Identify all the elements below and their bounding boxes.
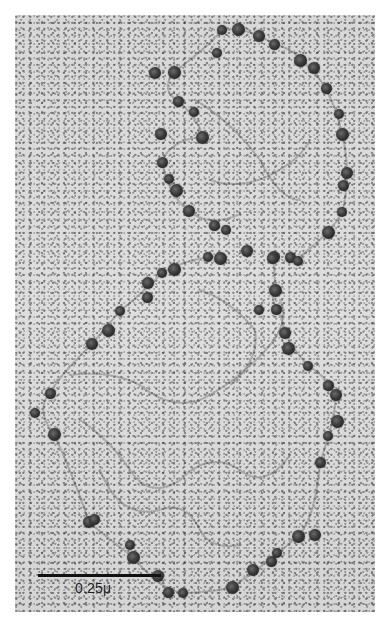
nucleosome-bead [323,431,333,441]
nucleosome-bead [315,457,326,468]
nucleosome-bead [279,327,291,339]
nucleosome-bead [189,107,199,117]
nucleosome-bead [157,157,168,168]
nucleosome-bead [163,587,174,598]
nucleosome-bead [294,54,307,67]
nucleosome-bead [125,540,135,550]
nucleosome-bead [30,408,40,418]
nucleosome-bead [303,361,313,371]
nucleosome-bead [168,66,181,79]
nucleosome-bead [321,83,332,94]
nucleosome-bead [212,48,222,58]
nucleosome-bead [334,109,344,119]
nucleosome-bead [309,529,321,541]
nucleosome-bead [267,253,278,264]
nucleosome-bead [341,167,353,179]
nucleosome-bead [203,252,213,262]
electron-micrograph [15,15,375,612]
scale-bar [38,574,161,577]
nucleosome-bead [253,30,265,42]
nucleosome-bead [254,305,264,315]
nucleosome-bead [115,306,125,316]
nucleosome-bead [221,225,231,235]
nucleosome-bead [45,388,56,399]
nucleosome-bead [232,23,245,36]
nucleosome-bead [196,131,209,144]
scale-bar-label: 0.25μ [75,580,111,596]
nucleosome-bead [241,245,253,257]
nucleosome-bead [322,226,335,239]
nucleosome-bead [164,174,174,184]
nucleosome-bead [337,207,347,217]
nucleosome-bead [86,338,98,350]
nucleosome-bead [89,514,100,525]
nucleosome-bead [209,220,220,231]
nucleosome-bead [330,389,342,401]
nucleosome-bead [217,25,227,35]
nucleosome-bead [173,96,184,107]
nucleosome-bead [271,304,282,315]
nucleosome-bead [170,184,183,197]
nucleosome-bead [102,324,115,337]
nucleosome-bead [282,342,295,355]
nucleosome-bead [331,415,344,428]
nucleosome-bead [149,67,161,79]
nucleosome-bead [308,62,320,74]
nucleosome-bead [155,128,167,140]
nucleosome-bead [142,292,153,303]
nucleosome-bead [183,205,195,217]
nucleosome-bead [293,256,303,266]
nucleosome-bead [157,268,167,278]
nucleosome-bead [214,252,227,265]
nucleosome-bead [269,39,280,50]
nucleosome-bead [168,263,181,276]
nucleosome-bead [272,548,282,558]
nucleosome-bead [292,530,305,543]
nucleosome-bead [247,564,259,576]
nucleosome-bead [338,180,349,191]
nucleosome-bead [48,428,61,441]
nucleosome-bead [269,284,282,297]
nucleosome-bead [127,551,140,564]
nucleosome-bead [226,581,239,594]
nucleosome-bead [178,588,188,598]
nucleosome-bead [336,128,349,141]
nucleosome-bead [323,380,334,391]
nucleosome-bead [142,277,154,289]
